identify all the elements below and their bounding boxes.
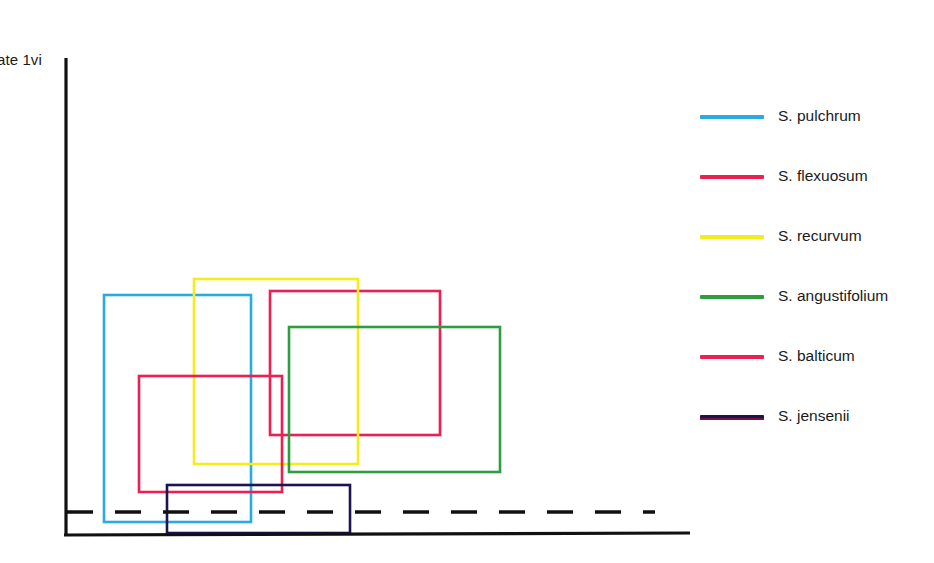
legend-item-label: S. jensenii	[778, 407, 850, 425]
legend-item[interactable]: S. flexuosum	[700, 163, 930, 223]
species-envelope-group	[104, 279, 500, 533]
legend-item-label: S. angustifolium	[778, 287, 888, 305]
legend-color-swatch	[700, 235, 764, 239]
legend: S. pulchrumS. flexuosumS. recurvumS. ang…	[700, 103, 930, 463]
legend-item[interactable]: S. balticum	[700, 343, 930, 403]
species-envelope-rect	[270, 291, 440, 435]
legend-item[interactable]: S. pulchrum	[700, 103, 930, 163]
legend-color-swatch	[700, 415, 764, 420]
legend-color-swatch	[700, 355, 764, 359]
legend-color-swatch	[700, 115, 764, 119]
legend-color-swatch	[700, 175, 764, 179]
legend-item-label: S. flexuosum	[778, 167, 868, 185]
axes-group	[64, 58, 690, 535]
legend-item[interactable]: S. recurvum	[700, 223, 930, 283]
legend-item-label: S. pulchrum	[778, 107, 861, 125]
species-envelope-rect	[289, 327, 500, 472]
x-axis-line	[64, 533, 690, 535]
legend-color-swatch	[700, 295, 764, 299]
species-envelope-rect	[104, 295, 251, 522]
legend-item[interactable]: S. jensenii	[700, 403, 930, 463]
legend-item-label: S. recurvum	[778, 227, 862, 245]
species-envelope-rect	[139, 376, 282, 492]
legend-item-label: S. balticum	[778, 347, 855, 365]
figure-canvas: ate 1vi S. pulchrumS. flexuosumS. recurv…	[0, 0, 934, 563]
legend-item[interactable]: S. angustifolium	[700, 283, 930, 343]
